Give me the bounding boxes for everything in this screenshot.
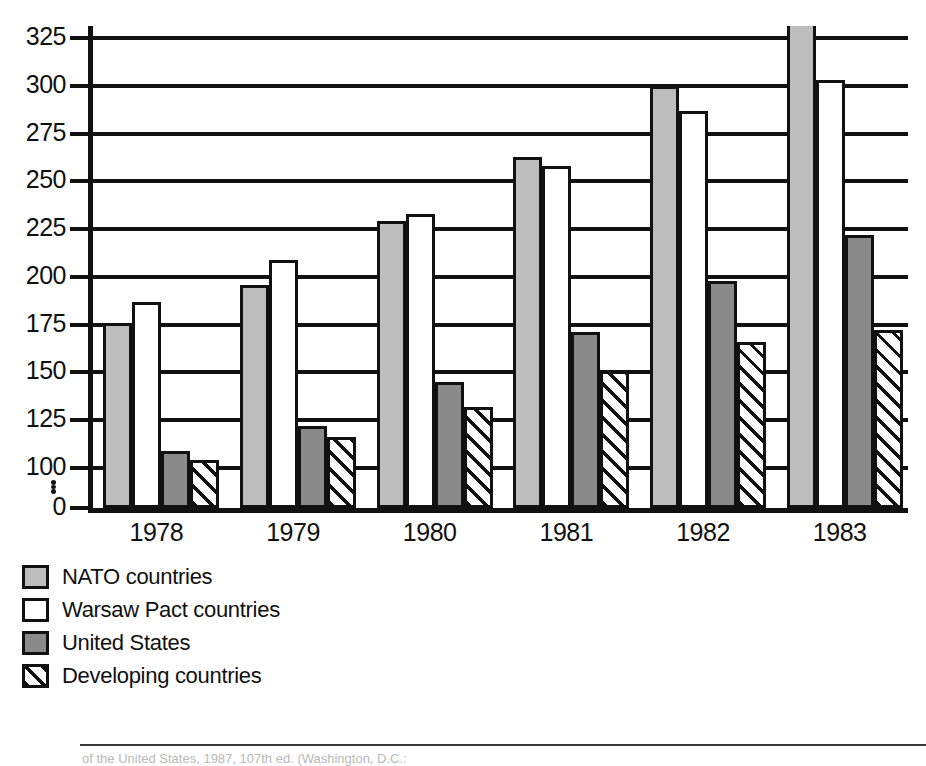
y-tick-mark-300 [70, 84, 88, 88]
x-tick-label-1981: 1981 [516, 518, 616, 546]
bar-nato-1979 [240, 285, 269, 508]
bar-nato-1981 [513, 157, 542, 509]
legend-label-us: United States [62, 631, 190, 655]
legend-label-nato: NATO countries [62, 565, 212, 589]
bar-warsaw-1981 [542, 166, 571, 508]
bar-group-1979 [230, 26, 367, 508]
bar-nato-1978 [103, 323, 132, 508]
y-tick-label-275: 275 [26, 120, 66, 145]
bar-us-1981 [571, 332, 600, 508]
bar-groups [93, 26, 908, 508]
bar-nato-1982 [650, 86, 679, 508]
y-tick-mark-0 [70, 506, 88, 510]
bar-group-1982 [640, 26, 777, 508]
bar-warsaw-1980 [406, 214, 435, 508]
chart-legend: NATO countriesWarsaw Pact countriesUnite… [22, 561, 442, 693]
legend-item-nato[interactable]: NATO countries [22, 561, 442, 592]
legend-swatch-warsaw-icon [22, 598, 49, 622]
bar-group-1978 [93, 26, 230, 508]
bar-group-1981 [503, 26, 640, 508]
bar-us-1978 [161, 451, 190, 508]
y-tick-mark-100 [70, 466, 88, 470]
y-tick-label-225: 225 [26, 215, 66, 240]
y-tick-mark-225 [70, 227, 88, 231]
legend-item-warsaw[interactable]: Warsaw Pact countries [22, 594, 442, 625]
legend-label-dev: Developing countries [62, 664, 261, 688]
bar-warsaw-1983 [816, 80, 845, 508]
bar-warsaw-1982 [679, 111, 708, 508]
bar-group-1983 [776, 26, 908, 508]
bar-nato-1983 [787, 26, 816, 508]
y-axis-break-indicator [50, 480, 56, 494]
legend-label-warsaw: Warsaw Pact countries [62, 598, 280, 622]
plot-area-wrapper: 3253002752502252001751501251000 19781979… [0, 0, 926, 545]
y-tick-label-175: 175 [26, 311, 66, 336]
y-tick-label-325: 325 [26, 24, 66, 49]
y-tick-label-150: 150 [26, 358, 66, 383]
y-tick-mark-200 [70, 275, 88, 279]
source-caption: of the United States, 1987, 107th ed. (W… [82, 751, 926, 766]
bar-us-1983 [845, 235, 874, 508]
bar-warsaw-1979 [269, 260, 298, 508]
bar-dev-1982 [737, 342, 766, 508]
y-axis: 3253002752502252001751501251000 [0, 0, 66, 545]
bar-dev-1981 [600, 371, 629, 508]
bar-warsaw-1978 [132, 302, 161, 508]
y-tick-label-125: 125 [26, 406, 66, 431]
legend-swatch-us-icon [22, 631, 49, 655]
y-tick-mark-275 [70, 132, 88, 136]
bar-dev-1979 [327, 437, 356, 508]
legend-swatch-dev-icon [22, 664, 49, 688]
axis-break-dot [51, 480, 56, 485]
caption-divider [80, 744, 926, 746]
axis-break-dot [51, 489, 56, 494]
bar-us-1980 [435, 382, 464, 508]
x-tick-label-1980: 1980 [380, 518, 480, 546]
legend-item-dev[interactable]: Developing countries [22, 660, 442, 691]
bar-nato-1980 [377, 221, 406, 508]
x-tick-label-1982: 1982 [653, 518, 753, 546]
y-tick-label-250: 250 [26, 167, 66, 192]
y-tick-mark-150 [70, 370, 88, 374]
bar-us-1979 [298, 426, 327, 508]
bar-dev-1978 [190, 460, 219, 508]
y-tick-mark-325 [70, 36, 88, 40]
y-tick-label-300: 300 [26, 72, 66, 97]
x-axis: 197819791980198119821983 [88, 518, 908, 550]
legend-item-us[interactable]: United States [22, 627, 442, 658]
bar-dev-1983 [874, 330, 903, 508]
bar-group-1980 [366, 26, 503, 508]
bar-us-1982 [708, 281, 737, 508]
y-tick-mark-125 [70, 418, 88, 422]
plot-area [88, 26, 908, 513]
x-tick-label-1979: 1979 [243, 518, 343, 546]
y-tick-mark-250 [70, 179, 88, 183]
y-tick-mark-175 [70, 323, 88, 327]
chart-figure: 3253002752502252001751501251000 19781979… [0, 0, 926, 766]
bar-dev-1980 [464, 407, 493, 508]
y-tick-label-100: 100 [26, 454, 66, 479]
legend-swatch-nato-icon [22, 565, 49, 589]
x-tick-label-1983: 1983 [790, 518, 890, 546]
y-tick-label-0: 0 [53, 494, 66, 519]
y-tick-label-200: 200 [26, 263, 66, 288]
x-tick-label-1978: 1978 [106, 518, 206, 546]
